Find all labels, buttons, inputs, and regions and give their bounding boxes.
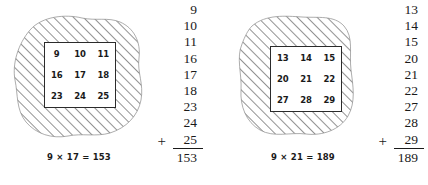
- figure-caption-right: 9 × 21 = 189: [228, 152, 378, 162]
- last-addend: 25: [173, 132, 203, 149]
- addend: 17: [139, 67, 203, 83]
- grid-cell: 28: [294, 90, 317, 111]
- figure-left: 9 10 11 16 17 18 23 24 25 9 × 17 = 153 9…: [0, 0, 214, 185]
- grid-cell: 22: [318, 68, 341, 89]
- addend: 10: [139, 18, 203, 34]
- grid-cell: 16: [45, 64, 68, 85]
- sum-total: 153: [139, 149, 203, 166]
- addition-column-right: 13 14 15 20 21 22 27 28 + 29 189: [360, 2, 424, 166]
- addend: 13: [360, 2, 424, 18]
- addend: 24: [139, 115, 203, 131]
- grid-cell: 21: [294, 68, 317, 89]
- grid-cell: 20: [271, 68, 294, 89]
- grid-cell: 15: [318, 47, 341, 68]
- plus-operator-icon: +: [379, 133, 387, 149]
- addend: 15: [360, 34, 424, 50]
- grid-cell: 25: [92, 86, 115, 107]
- addend: 22: [360, 83, 424, 99]
- grid-cell: 17: [68, 64, 91, 85]
- grid-cell: 29: [318, 90, 341, 111]
- plus-operator-icon: +: [158, 133, 166, 149]
- addition-column-left: 9 10 11 16 17 18 23 24 + 25 153: [139, 2, 203, 166]
- grid-cell: 23: [45, 86, 68, 107]
- addend: 21: [360, 67, 424, 83]
- grid-cell: 13: [271, 47, 294, 68]
- grid-cell: 11: [92, 43, 115, 64]
- addend: 18: [139, 83, 203, 99]
- grid-cell: 27: [271, 90, 294, 111]
- number-grid-left: 9 10 11 16 17 18 23 24 25: [44, 42, 116, 108]
- addend: 16: [139, 51, 203, 67]
- addend: 14: [360, 18, 424, 34]
- sum-total: 189: [360, 149, 424, 166]
- figure-caption-left: 9 × 17 = 153: [4, 152, 154, 162]
- addend: 23: [139, 99, 203, 115]
- figure-right: 13 14 15 20 21 22 27 28 29 9 × 21 = 189 …: [214, 0, 428, 185]
- addend: 27: [360, 99, 424, 115]
- addend: 20: [360, 51, 424, 67]
- final-addend-row: + 29: [360, 132, 424, 149]
- grid-cell: 24: [68, 86, 91, 107]
- last-addend: 29: [394, 132, 424, 149]
- final-addend-row: + 25: [139, 132, 203, 149]
- addend: 9: [139, 2, 203, 18]
- grid-cell: 18: [92, 64, 115, 85]
- grid-cell: 14: [294, 47, 317, 68]
- grid-cell: 9: [45, 43, 68, 64]
- addend: 28: [360, 115, 424, 131]
- grid-cell: 10: [68, 43, 91, 64]
- number-grid-right: 13 14 15 20 21 22 27 28 29: [270, 46, 342, 112]
- addend: 11: [139, 34, 203, 50]
